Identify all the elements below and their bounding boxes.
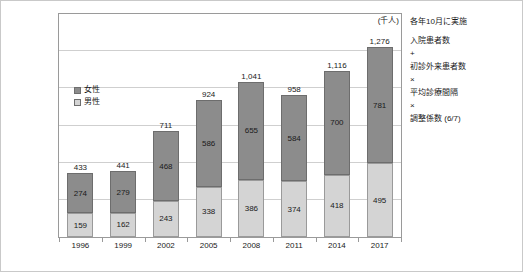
- x-axis: 19961999200220052008201120142017: [58, 238, 402, 254]
- annotation-operator: +: [410, 47, 516, 60]
- bar-segment-female: 274: [67, 173, 93, 214]
- bar-segment-female: 468: [153, 131, 179, 201]
- annotation-panel: 各年10月に実施入院患者数+初診外来患者数×平均診療間隔×調整係数 (6/7): [410, 15, 516, 125]
- x-axis-tick: [187, 238, 188, 242]
- annotation-note: 各年10月に実施: [410, 15, 516, 28]
- bar-segment-female: 655: [238, 82, 264, 179]
- legend-item-male: 男性: [74, 96, 100, 108]
- bar-group: 3866551,041: [238, 14, 264, 237]
- x-axis-label: 2011: [286, 241, 303, 250]
- x-axis-tick: [358, 238, 359, 242]
- bar-total-label: 711: [159, 121, 172, 130]
- bar-group: 162279441: [110, 14, 136, 237]
- bar-total-label: 1,041: [241, 72, 261, 81]
- bar-total-label: 441: [116, 161, 129, 170]
- plot-area: 1592744331622794412434687113385869243866…: [59, 14, 401, 237]
- annotation-operator: ×: [410, 99, 516, 112]
- bar-segment-male: 338: [196, 187, 222, 237]
- legend-swatch-male: [74, 99, 81, 106]
- bar-segment-female: 700: [324, 71, 350, 175]
- legend-label-female: 女性: [84, 84, 100, 96]
- x-axis-label: 2017: [371, 241, 389, 250]
- annotation-term: 調整係数 (6/7): [410, 112, 516, 125]
- bar-segment-male: 495: [367, 163, 393, 237]
- x-axis-tick: [401, 238, 402, 242]
- x-axis-tick: [145, 238, 146, 242]
- bar-segment-female: 781: [367, 47, 393, 163]
- bar-group: 4187001,116: [324, 14, 350, 237]
- bar-group: 159274433: [67, 14, 93, 237]
- bar-total-label: 433: [74, 163, 87, 172]
- bar-segment-male: 159: [67, 213, 93, 237]
- bar-group: 338586924: [196, 14, 222, 237]
- x-axis-label: 1999: [114, 241, 132, 250]
- x-axis-label: 1996: [71, 241, 89, 250]
- x-axis-tick: [316, 238, 317, 242]
- bar-segment-male: 386: [238, 180, 264, 237]
- bar-segment-female: 279: [110, 171, 136, 212]
- annotation-term: 入院患者数: [410, 34, 516, 47]
- bar-total-label: 1,116: [327, 61, 346, 70]
- chart-figure: 1592744331622794412434687113385869243866…: [0, 0, 523, 272]
- x-axis-tick: [230, 238, 231, 242]
- bar-segment-female: 586: [196, 100, 222, 187]
- annotation-operator: ×: [410, 73, 516, 86]
- bar-segment-female: 584: [281, 95, 307, 182]
- bar-total-label: 924: [202, 90, 215, 99]
- plot-frame: 1592744331622794412434687113385869243866…: [58, 13, 402, 238]
- x-axis-tick: [102, 238, 103, 242]
- legend-label-male: 男性: [84, 96, 100, 108]
- x-axis-tick: [59, 238, 60, 242]
- chart-legend: 女性 男性: [74, 84, 100, 108]
- x-axis-label: 2008: [242, 241, 260, 250]
- bar-group: 243468711: [153, 14, 179, 237]
- bar-segment-male: 243: [153, 201, 179, 237]
- bar-segment-male: 162: [110, 213, 136, 237]
- legend-item-female: 女性: [74, 84, 100, 96]
- x-axis-tick: [273, 238, 274, 242]
- y-axis-unit-label: (千人): [378, 14, 399, 25]
- x-axis-label: 2005: [200, 241, 218, 250]
- bar-group: 4957811,276: [367, 14, 393, 237]
- legend-swatch-female: [74, 87, 81, 94]
- annotation-term: 初診外来患者数: [410, 60, 516, 73]
- bar-segment-male: 418: [324, 175, 350, 237]
- x-axis-label: 2014: [328, 241, 346, 250]
- bar-segment-male: 374: [281, 181, 307, 237]
- bar-total-label: 958: [287, 85, 300, 94]
- x-axis-label: 2002: [157, 241, 175, 250]
- annotation-term: 平均診療間隔: [410, 86, 516, 99]
- bar-total-label: 1,276: [370, 37, 390, 46]
- bar-group: 374584958: [281, 14, 307, 237]
